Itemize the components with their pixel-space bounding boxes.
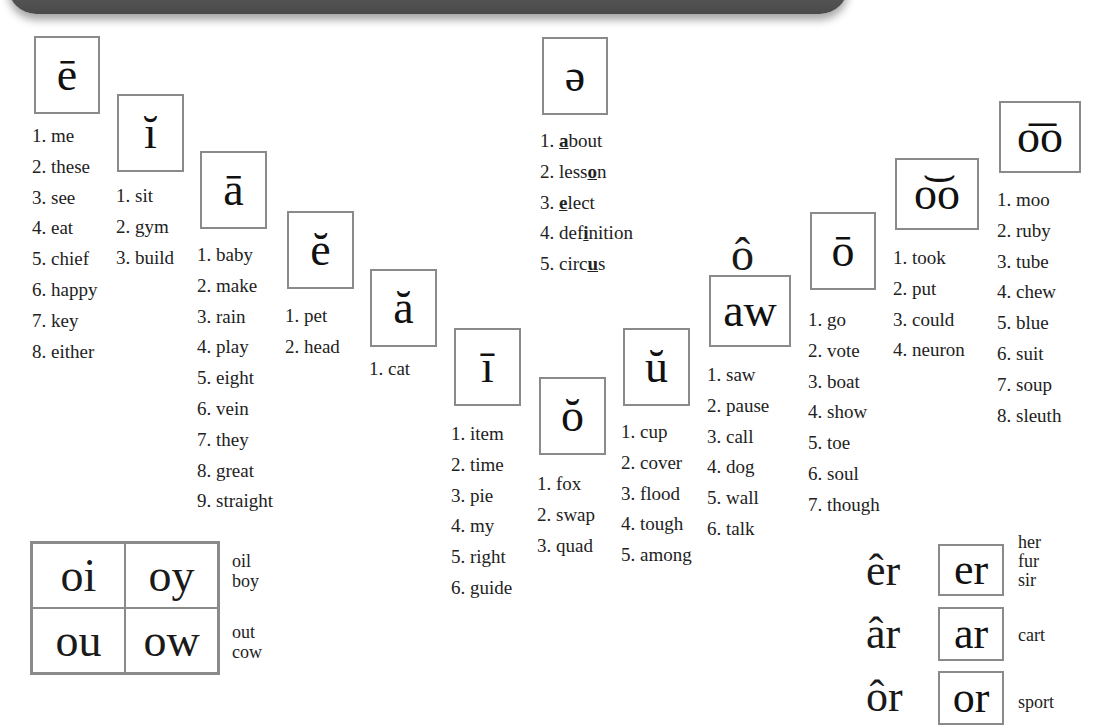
word-list-a-short: 1. cat [369,354,410,385]
word: 5. chief [32,244,97,275]
word: 4. definition [540,218,633,249]
word-list-e-short: 1. pet 2. head [285,301,340,363]
vowel-box-i-long: ī [454,328,521,406]
word: 1. about [540,126,633,157]
diphthong-grid: oi oy ou ow [30,541,220,675]
example-word: oil [232,551,259,571]
vowel-box-aw: aw [709,275,791,347]
diphthong-examples-oi-oy: oil boy [232,551,259,591]
word: 3. could [893,305,965,336]
vowel-box-o-long: ō [810,212,876,290]
word: 5. toe [808,428,880,459]
example-word: sport [1018,692,1054,712]
word-list-o-long: 1. go 2. vote 3. boat 4. show 5. toe 6. … [808,305,880,521]
word: 1. took [893,243,965,274]
word: 2. cover [621,448,692,479]
word: 2. head [285,332,340,363]
vowel-symbol: ō [832,228,855,274]
example-word: sir [1018,571,1041,590]
vowel-symbol: ĭ [144,110,157,156]
word: 4. my [451,511,512,542]
word: 6. suit [997,339,1061,370]
r-examples-ar: cart [1018,625,1045,645]
word-list-schwa: 1. about 2. lesson 3. elect 4. definitio… [540,126,633,280]
r-label-er: êr [866,549,900,593]
example-word: cart [1018,625,1045,645]
word: 1. me [32,121,97,152]
word: 2. swap [537,500,595,531]
word: 1. saw [707,360,769,391]
word: 1. cat [369,354,410,385]
word-list-i-long: 1. item 2. time 3. pie 4. my 5. right 6.… [451,419,512,604]
word: 3. call [707,422,769,453]
r-box-ar: ar [938,607,1004,661]
word-list-i-short: 1. sit 2. gym 3. build [116,181,174,273]
word: 5. wall [707,483,769,514]
diphthong-ou: ou [32,608,125,673]
word: 3. tube [997,247,1061,278]
word-list-e-long: 1. me 2. these 3. see 4. eat 5. chief 6.… [32,121,97,367]
word: 2. pause [707,391,769,422]
word: 4. tough [621,509,692,540]
vowel-symbol: ŭ [645,344,668,390]
word: 2. gym [116,212,174,243]
r-examples-or: sport [1018,692,1054,712]
word: 2. put [893,274,965,305]
example-word: out [232,622,262,642]
vowel-box-a-long: ā [200,151,267,229]
word: 2. these [32,152,97,183]
word: 5. right [451,542,512,573]
word: 3. build [116,243,174,274]
word-list-aw: 1. saw 2. pause 3. call 4. dog 5. wall 6… [707,360,769,545]
r-label-or: ôr [866,675,903,719]
word: 8. sleuth [997,401,1061,432]
word: 2. ruby [997,216,1061,247]
word: 2. make [197,271,273,302]
vowel-box-o-short: ŏ [539,377,606,455]
word-list-u-short: 1. cup 2. cover 3. flood 4. tough 5. amo… [621,417,692,571]
diphthong-ow: ow [125,608,218,673]
vowel-box-u-short: ŭ [623,328,690,406]
r-symbol: er [954,548,988,592]
r-examples-er: her fur sir [1018,533,1041,590]
vowel-box-e-short: ĕ [287,211,354,289]
word: 7. though [808,490,880,521]
word: 7. key [32,306,97,337]
word: 4. show [808,397,880,428]
vowel-symbol: ā [223,167,243,213]
word: 4. eat [32,213,97,244]
word: 6. vein [197,394,273,425]
vowel-label-o-circumflex: ô [731,232,754,278]
word-list-a-long: 1. baby 2. make 3. rain 4. play 5. eight… [197,240,273,517]
word: 3. quad [537,531,595,562]
example-word: her [1018,533,1041,552]
word: 3. see [32,183,97,214]
example-word: boy [232,571,259,591]
r-symbol: ar [954,612,988,656]
vowel-symbol: ī [481,344,494,390]
vowel-symbol: ŏ [561,393,584,439]
word: 3. flood [621,479,692,510]
word: 1. cup [621,417,692,448]
example-word: fur [1018,552,1041,571]
vowel-symbol: aw [723,288,777,334]
vowel-symbol: ĕ [310,227,330,273]
word: 1. pet [285,301,340,332]
word: 1. item [451,419,512,450]
word: 4. dog [707,452,769,483]
r-box-er: er [938,544,1004,596]
diphthong-oy: oy [125,543,218,608]
example-word: cow [232,642,262,662]
word: 3. rain [197,302,273,333]
vowel-symbol: o͞o [1017,114,1063,160]
word: 8. either [32,337,97,368]
word: 6. talk [707,514,769,545]
word: 3. elect [540,188,633,219]
word: 6. happy [32,275,97,306]
word-list-o-short: 1. fox 2. swap 3. quad [537,469,595,561]
diphthong-examples-ou-ow: out cow [232,622,262,662]
word: 4. play [197,332,273,363]
word: 1. go [808,305,880,336]
word: 3. boat [808,367,880,398]
word: 7. soup [997,370,1061,401]
